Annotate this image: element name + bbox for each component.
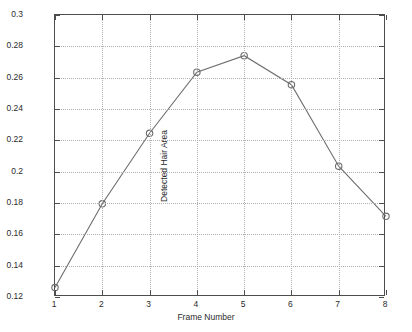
y-axis-tick [379,109,384,110]
y-axis-tick [379,46,384,47]
x-axis-tick [339,290,340,295]
y-axis-tick [379,78,384,79]
y-axis-tick [379,266,384,267]
figure-canvas: 0.120.140.160.180.20.220.240.260.280.3 F… [0,0,412,332]
y-axis-tick [379,15,384,16]
x-axis-tick-label: 2 [89,300,113,309]
x-axis-tick [386,15,387,20]
y-axis-tick [379,203,384,204]
y-axis-tick [379,297,384,298]
x-axis-tick [339,15,340,20]
x-axis-tick-label: 7 [326,300,350,309]
x-axis-tick [386,290,387,295]
x-axis-tick-label: 3 [137,300,161,309]
x-axis-tick-label: 8 [373,300,397,309]
y-axis-tick [379,140,384,141]
y-axis-tick [379,234,384,235]
y-axis-tick [379,172,384,173]
y-axis-title: Detected Hair Area [0,0,330,332]
x-axis-tick-label: 1 [42,300,66,309]
x-axis-tick-label: 6 [278,300,302,309]
x-axis-tick-label: 5 [231,300,255,309]
x-axis-tick-label: 4 [184,300,208,309]
